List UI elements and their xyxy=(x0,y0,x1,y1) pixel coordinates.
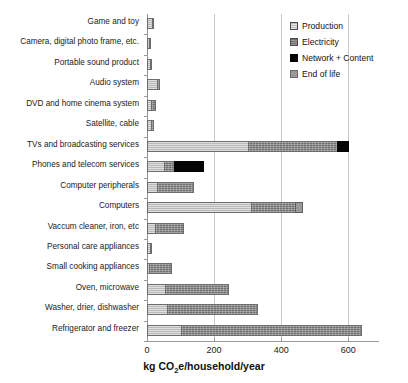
bar-segment-endoflife xyxy=(295,202,303,213)
legend-swatch-electricity-icon xyxy=(290,38,298,46)
stacked-bar[interactable] xyxy=(147,100,156,111)
y-tick-mark xyxy=(144,55,148,56)
bar-row xyxy=(147,259,375,279)
category-label: TVs and broadcasting services xyxy=(0,140,139,150)
x-axis-title: kg CO2e/household/year xyxy=(0,360,408,375)
bar-segment-production xyxy=(147,284,165,295)
bar-segment-production xyxy=(147,79,157,90)
category-label: Game and toy xyxy=(0,17,139,27)
category-label: Phones and telecom services xyxy=(0,160,139,170)
bar-segment-production xyxy=(147,202,251,213)
stacked-bar[interactable] xyxy=(147,141,349,152)
stacked-bar[interactable] xyxy=(147,284,229,295)
bar-segment-production xyxy=(147,161,164,172)
bar-segment-network xyxy=(174,161,204,172)
category-label: Personal care appliances xyxy=(0,242,139,252)
category-label: Audio system xyxy=(0,78,139,88)
legend-label: Network + Content xyxy=(302,53,373,63)
bar-segment-electricity xyxy=(151,100,156,111)
y-tick-mark xyxy=(144,341,148,342)
y-tick-mark xyxy=(144,259,148,260)
stacked-bar[interactable] xyxy=(147,59,152,70)
stacked-bar[interactable] xyxy=(147,38,151,49)
legend-label: End of life xyxy=(302,69,340,79)
bar-row xyxy=(147,157,375,177)
legend-label: Electricity xyxy=(302,37,339,47)
category-label: Oven, microwave xyxy=(0,283,139,293)
y-tick-mark xyxy=(144,75,148,76)
bar-segment-electricity xyxy=(157,79,160,90)
bar-segment-electricity xyxy=(165,284,229,295)
category-label: Small cooking appliances xyxy=(0,262,139,272)
stacked-bar[interactable] xyxy=(147,18,154,29)
legend-item[interactable]: Electricity xyxy=(290,34,406,49)
bar-row xyxy=(147,219,375,239)
bar-row xyxy=(147,137,375,157)
stacked-bar[interactable] xyxy=(147,202,303,213)
legend: ProductionElectricityNetwork + ContentEn… xyxy=(290,18,406,82)
bar-segment-electricity xyxy=(181,325,362,336)
bar-segment-electricity xyxy=(164,161,174,172)
legend-item[interactable]: End of life xyxy=(290,66,406,81)
legend-item[interactable]: Production xyxy=(290,18,406,33)
stacked-bar[interactable] xyxy=(147,161,204,172)
stacked-bar[interactable] xyxy=(147,263,172,274)
y-tick-mark xyxy=(144,96,148,97)
bar-segment-electricity xyxy=(149,38,151,49)
bar-segment-production xyxy=(147,223,155,234)
category-label: Refrigerator and freezer xyxy=(0,324,139,334)
y-tick-mark xyxy=(144,239,148,240)
bar-segment-production xyxy=(147,325,181,336)
y-tick-mark xyxy=(144,137,148,138)
stacked-bar[interactable] xyxy=(147,79,160,90)
stacked-bar[interactable] xyxy=(147,120,154,131)
bar-segment-electricity xyxy=(155,223,184,234)
chart-figure: Game and toyCamera, digital photo frame,… xyxy=(0,0,408,383)
bar-row xyxy=(147,178,375,198)
x-axis-title-post: e/household/year xyxy=(178,360,264,372)
x-tick-label-0: 0 xyxy=(144,345,149,355)
y-tick-mark xyxy=(144,34,148,35)
y-tick-mark xyxy=(144,219,148,220)
bar-segment-electricity xyxy=(150,243,152,254)
legend-swatch-network-icon xyxy=(290,54,298,62)
category-label: Portable sound product xyxy=(0,58,139,68)
category-axis-labels: Game and toyCamera, digital photo frame,… xyxy=(0,14,143,341)
category-label: DVD and home cinema system xyxy=(0,99,139,109)
legend-item[interactable]: Network + Content xyxy=(290,50,406,65)
bar-segment-electricity xyxy=(248,141,337,152)
x-tick-mark-400 xyxy=(281,338,282,342)
x-tick-label-600: 600 xyxy=(341,345,356,355)
x-tick-mark-200 xyxy=(214,338,215,342)
y-tick-mark xyxy=(144,178,148,179)
y-tick-mark xyxy=(144,321,148,322)
legend-swatch-endoflife-icon xyxy=(290,70,298,78)
category-label: Vaccum cleaner, iron, etc xyxy=(0,222,139,232)
category-label: Satellite, cable xyxy=(0,119,139,129)
x-tick-mark-600 xyxy=(348,338,349,342)
bar-segment-electricity xyxy=(152,18,154,29)
x-axis-title-pre: kg CO xyxy=(143,360,174,372)
bar-row xyxy=(147,116,375,136)
bar-segment-production xyxy=(147,304,167,315)
bar-segment-electricity xyxy=(251,202,295,213)
bar-row xyxy=(147,280,375,300)
bar-segment-electricity xyxy=(151,120,154,131)
stacked-bar[interactable] xyxy=(147,223,184,234)
bar-segment-electricity xyxy=(157,182,194,193)
category-label: Computer peripherals xyxy=(0,181,139,191)
bar-segment-network xyxy=(337,141,349,152)
y-tick-mark xyxy=(144,157,148,158)
bar-row xyxy=(147,321,375,341)
category-label: Washer, drier, dishwasher xyxy=(0,303,139,313)
legend-label: Production xyxy=(302,21,343,31)
stacked-bar[interactable] xyxy=(147,182,194,193)
stacked-bar[interactable] xyxy=(147,243,152,254)
x-tick-label-200: 200 xyxy=(207,345,222,355)
stacked-bar[interactable] xyxy=(147,325,362,336)
bar-segment-electricity xyxy=(149,263,172,274)
stacked-bar[interactable] xyxy=(147,304,258,315)
bar-segment-electricity xyxy=(167,304,258,315)
y-tick-mark xyxy=(144,280,148,281)
y-tick-mark xyxy=(144,116,148,117)
